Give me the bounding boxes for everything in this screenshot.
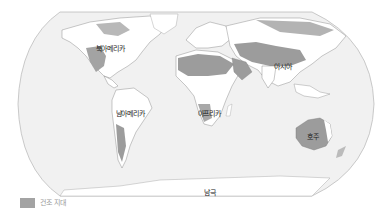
- world-map-svg: [0, 0, 386, 208]
- legend-label-dry-zone: 건조 지대: [40, 198, 66, 208]
- label-south-america: 남아메리카: [116, 108, 145, 118]
- map-legend: 건조 지대: [20, 198, 66, 208]
- world-map: 북아메리카 아시아 남아메리카 아프리카 호주 남극: [0, 0, 386, 208]
- label-antarctica: 남극: [204, 187, 215, 197]
- label-north-america: 북아메리카: [96, 43, 125, 53]
- label-asia: 아시아: [274, 61, 291, 71]
- label-australia: 호주: [307, 131, 318, 141]
- label-africa: 아프리카: [198, 108, 221, 118]
- legend-swatch-dry-zone: [20, 198, 35, 208]
